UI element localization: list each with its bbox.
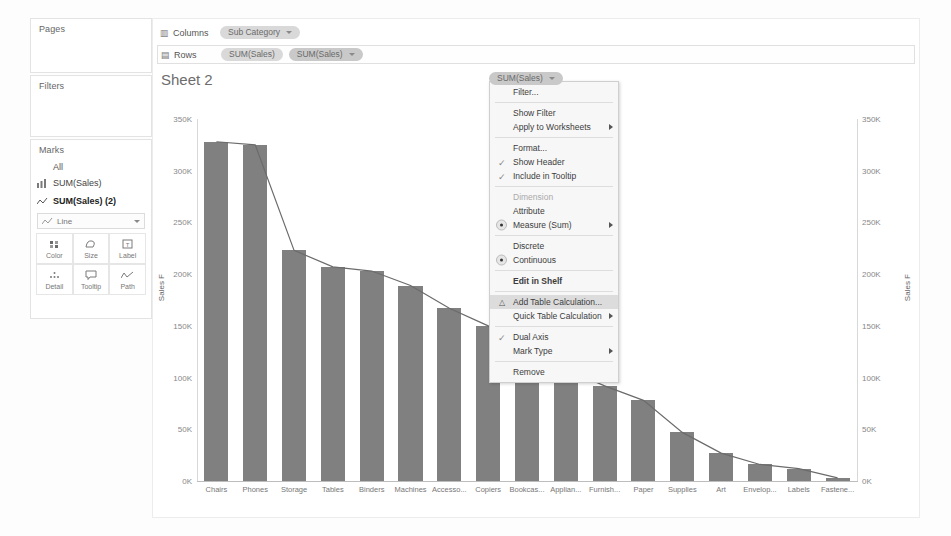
x-tick-label[interactable]: Copiers [475, 485, 501, 494]
y-tick-label-right: 200K [862, 270, 881, 279]
x-tick-label[interactable]: Envelop... [743, 485, 776, 494]
filters-card[interactable]: Filters [30, 75, 152, 137]
menu-separator [495, 326, 613, 327]
menu-item-attribute[interactable]: Attribute [490, 204, 618, 218]
y-tick-label-left: 100K [173, 373, 192, 382]
chevron-down-icon [134, 220, 140, 223]
path-button[interactable]: Path [109, 264, 146, 295]
pill-sub-category-label: Sub Category [228, 26, 280, 39]
marks-card-all[interactable]: All [31, 155, 151, 174]
context-menu-header-label: SUM(Sales) [497, 72, 543, 85]
x-tick-label[interactable]: Binders [359, 485, 384, 494]
size-icon [85, 239, 97, 250]
x-tick-label[interactable]: Supplies [668, 485, 697, 494]
color-icon [49, 239, 60, 250]
menu-item-label: Apply to Worksheets [513, 122, 591, 132]
menu-item-dual-axis[interactable]: ✓Dual Axis [490, 330, 618, 344]
tableau-worksheet-screen: Pages Filters Marks All SUM(Sales) SUM(S [0, 0, 951, 536]
x-tick-label[interactable]: Furnish... [589, 485, 620, 494]
y-tick-label-right: 250K [862, 218, 881, 227]
menu-item-label: Dimension [513, 192, 553, 202]
x-tick-label[interactable]: Fastene... [821, 485, 854, 494]
menu-item-measure-sum[interactable]: Measure (Sum) [490, 218, 618, 232]
check-icon: ✓ [496, 157, 507, 168]
detail-button[interactable]: Detail [36, 264, 73, 295]
columns-label-text: Columns [173, 28, 209, 38]
x-tick-label[interactable]: Storage [281, 485, 307, 494]
x-tick-label[interactable]: Tables [322, 485, 344, 494]
color-button[interactable]: Color [36, 233, 73, 264]
left-shelf-panel: Pages Filters Marks All SUM(Sales) SUM(S [30, 18, 152, 318]
viz-pane: ▥ Columns Sub Category ▤ Rows SUM(Sales)… [152, 18, 920, 518]
menu-item-mark-type[interactable]: Mark Type [490, 344, 618, 358]
y-axis-right-line [857, 119, 858, 481]
x-tick-label[interactable]: Bookcas... [509, 485, 544, 494]
x-tick-label[interactable]: Labels [788, 485, 810, 494]
menu-item-label: Mark Type [513, 346, 553, 356]
pages-card[interactable]: Pages [30, 18, 152, 73]
field-context-menu[interactable]: Filter...Show FilterApply to WorksheetsF… [489, 81, 619, 383]
menu-item-discrete[interactable]: Discrete [490, 239, 618, 253]
mark-type-dropdown[interactable]: Line [37, 213, 145, 229]
x-tick-label[interactable]: Applian... [550, 485, 581, 494]
x-tick-label[interactable]: Art [716, 485, 726, 494]
menu-item-edit-in-shelf[interactable]: Edit in Shelf [490, 274, 618, 288]
marks-label: Marks [31, 140, 151, 155]
menu-separator [495, 291, 613, 292]
y-axis-title-left: Sales F [157, 274, 166, 301]
mark-type-value: Line [57, 217, 72, 226]
chevron-down-icon[interactable] [549, 77, 555, 80]
x-axis-line [197, 481, 858, 482]
menu-item-include-in-tooltip[interactable]: ✓Include in Tooltip [490, 169, 618, 183]
menu-item-continuous[interactable]: Continuous [490, 253, 618, 267]
pill-sum-sales-2[interactable]: SUM(Sales) [289, 48, 363, 61]
menu-item-remove[interactable]: Remove [490, 365, 618, 379]
rows-shelf-label: ▤ Rows [158, 50, 221, 60]
menu-item-show-filter[interactable]: Show Filter [490, 106, 618, 120]
pages-label: Pages [31, 19, 151, 34]
menu-item-label: Measure (Sum) [513, 220, 572, 230]
filters-label: Filters [31, 76, 151, 91]
size-button[interactable]: Size [73, 233, 110, 264]
menu-separator [495, 361, 613, 362]
menu-item-quick-table-calculation[interactable]: Quick Table Calculation [490, 309, 618, 323]
x-tick-label[interactable]: Chairs [206, 485, 228, 494]
chevron-down-icon[interactable] [349, 53, 355, 56]
menu-item-filter[interactable]: Filter... [490, 85, 618, 99]
submenu-arrow-icon [609, 222, 613, 228]
menu-item-format[interactable]: Format... [490, 141, 618, 155]
menu-separator [495, 186, 613, 187]
y-tick-label-left: 250K [173, 218, 192, 227]
rows-label-text: Rows [174, 50, 197, 60]
x-tick-label[interactable]: Machines [394, 485, 426, 494]
menu-item-label: Edit in Shelf [513, 276, 562, 286]
columns-shelf[interactable]: ▥ Columns Sub Category [157, 24, 913, 41]
submenu-arrow-icon [609, 348, 613, 354]
menu-item-label: Show Filter [513, 108, 556, 118]
marks-card-sum-sales-2[interactable]: SUM(Sales) (2) [31, 192, 151, 210]
tooltip-button[interactable]: Tooltip [73, 264, 110, 295]
path-icon [121, 270, 134, 281]
x-tick-label[interactable]: Accesso... [432, 485, 467, 494]
menu-item-label: Show Header [513, 157, 565, 167]
context-menu-header-pill[interactable]: SUM(Sales) [489, 72, 563, 85]
y-tick-label-left: 50K [178, 425, 192, 434]
rows-shelf[interactable]: ▤ Rows SUM(Sales) SUM(Sales) [157, 45, 915, 64]
x-tick-label[interactable]: Paper [633, 485, 653, 494]
pill-sum-sales-1[interactable]: SUM(Sales) [221, 48, 283, 61]
menu-item-dimension: Dimension [490, 190, 618, 204]
label-button[interactable]: T Label [109, 233, 146, 264]
y-tick-label-right: 0K [862, 477, 872, 486]
menu-item-add-table-calculation[interactable]: △Add Table Calculation... [490, 295, 618, 309]
menu-item-label: Continuous [513, 255, 556, 265]
tooltip-button-label: Tooltip [81, 283, 101, 290]
menu-item-apply-to-worksheets[interactable]: Apply to Worksheets [490, 120, 618, 134]
pill-sub-category[interactable]: Sub Category [220, 26, 300, 39]
page-title: Sheet 2 [161, 71, 213, 88]
menu-separator [495, 270, 613, 271]
x-tick-label[interactable]: Phones [243, 485, 268, 494]
menu-item-show-header[interactable]: ✓Show Header [490, 155, 618, 169]
marks-card-sum-sales[interactable]: SUM(Sales) [31, 174, 151, 192]
menu-separator [495, 235, 613, 236]
chevron-down-icon[interactable] [286, 31, 292, 34]
